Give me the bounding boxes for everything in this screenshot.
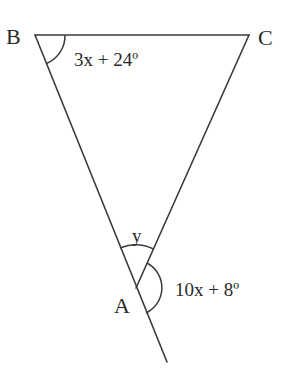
angle-label-b: 3x + 24º	[74, 49, 138, 70]
angle-arc-b	[47, 35, 66, 64]
vertex-label-c: C	[258, 25, 273, 50]
angle-label-y: y	[132, 225, 142, 246]
angle-label-exterior-a: 10x + 8º	[175, 279, 239, 300]
angle-arc-exterior-a	[146, 263, 162, 313]
triangle-diagram: B C A 3x + 24º y 10x + 8º	[0, 0, 289, 385]
side-ca	[136, 35, 249, 288]
vertex-label-a: A	[114, 293, 130, 318]
vertex-label-b: B	[6, 24, 21, 49]
